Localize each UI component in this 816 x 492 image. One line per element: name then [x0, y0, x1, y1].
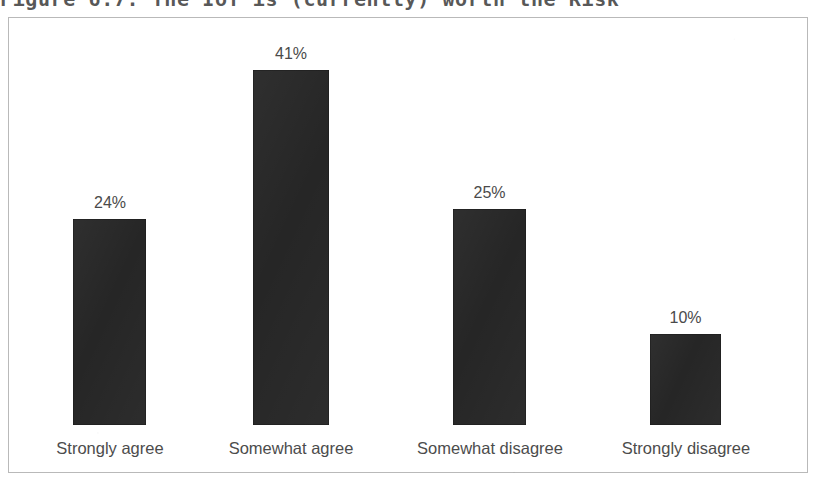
bar-3 [650, 334, 721, 425]
bar-value-label-0: 24% [65, 194, 155, 212]
bar-chart-plot-area: 24% Strongly agree 41% Somewhat agree 25… [9, 18, 807, 472]
bar-value-label-2: 25% [445, 184, 534, 202]
bar-value-label-3: 10% [642, 309, 729, 327]
bar-2 [453, 209, 526, 425]
figure-caption: Figure 6.7: The IoT is (currently) worth… [0, 0, 619, 11]
bar-group-0: 24% Strongly agree [65, 18, 155, 472]
bar-category-label-1: Somewhat agree [217, 439, 365, 458]
bar-0 [73, 219, 146, 425]
bar-group-2: 25% Somewhat disagree [445, 18, 534, 472]
figure-caption-strip: Figure 6.7: The IoT is (currently) worth… [0, 0, 816, 15]
bar-category-label-2: Somewhat disagree [405, 439, 575, 458]
bar-1 [253, 70, 329, 425]
bar-category-label-0: Strongly agree [40, 439, 180, 458]
bar-category-label-3: Strongly disagree [607, 439, 765, 458]
chart-frame: 24% Strongly agree 41% Somewhat agree 25… [8, 17, 808, 473]
bar-value-label-1: 41% [245, 45, 337, 63]
bar-group-1: 41% Somewhat agree [245, 18, 337, 472]
bar-group-3: 10% Strongly disagree [642, 18, 729, 472]
